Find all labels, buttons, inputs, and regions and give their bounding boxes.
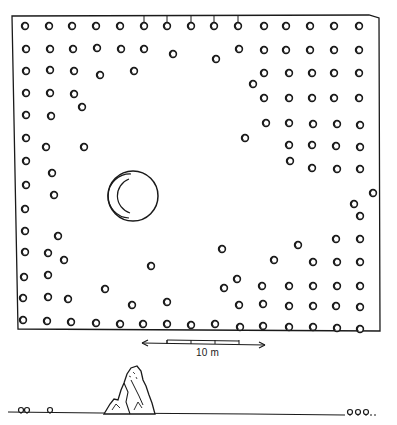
post-hole [250, 81, 257, 88]
post-hole [261, 47, 268, 54]
post-hole [70, 46, 77, 53]
post-hole [43, 144, 50, 151]
central-well-circle [108, 171, 158, 221]
post-hole [61, 257, 68, 264]
post-hole [357, 166, 364, 173]
post-hole [286, 283, 293, 290]
post-hole [309, 142, 316, 149]
post-hole [188, 322, 195, 329]
post-hole [48, 113, 55, 120]
site-plan-drawing [0, 0, 397, 425]
post-hole [23, 112, 30, 119]
post-hole [334, 166, 341, 173]
post-hole [71, 91, 78, 98]
post-hole [356, 23, 363, 30]
post-hole [357, 122, 364, 129]
post-hole [131, 68, 138, 75]
post-hole [164, 299, 171, 306]
shrub-icon [356, 410, 361, 417]
post-hole [140, 321, 147, 328]
post-hole [65, 296, 72, 303]
scale-line-bottom [142, 343, 265, 345]
post-hole [164, 23, 171, 30]
post-hole [334, 259, 341, 266]
post-hole [93, 320, 100, 327]
post-hole [141, 23, 148, 30]
post-hole [357, 304, 364, 311]
post-hole [236, 46, 243, 53]
post-hole [170, 51, 177, 58]
post-hole [309, 95, 316, 102]
post-hole [356, 70, 363, 77]
post-hole [286, 95, 293, 102]
shrub-icon [364, 410, 369, 417]
post-hole [307, 47, 314, 54]
post-hole [23, 46, 30, 53]
post-hole [333, 236, 340, 243]
post-hole [81, 144, 88, 151]
post-hole [370, 190, 377, 197]
post-hole [45, 250, 52, 257]
post-hole [357, 213, 364, 220]
post-hole [286, 70, 293, 77]
post-hole [46, 23, 53, 30]
post-hole [141, 46, 148, 53]
post-hole [286, 120, 293, 127]
post-hole [310, 283, 317, 290]
post-hole [211, 23, 218, 30]
post-hole [69, 23, 76, 30]
post-hole [148, 263, 155, 270]
post-hole [55, 233, 62, 240]
post-hole [334, 325, 341, 332]
post-hole [357, 259, 364, 266]
post-hole [212, 321, 219, 328]
post-hole [22, 228, 29, 235]
post-hole [118, 46, 125, 53]
post-hole [44, 318, 51, 325]
post-hole [51, 192, 58, 199]
post-hole [357, 283, 364, 290]
post-hole [23, 135, 30, 142]
post-hole [286, 324, 293, 331]
post-hole [97, 72, 104, 79]
well-outer [108, 171, 158, 221]
post-hole [331, 23, 338, 30]
shrub-icon [25, 408, 30, 415]
post-hole [102, 286, 109, 293]
post-hole [261, 95, 268, 102]
post-hole [93, 23, 100, 30]
post-hole [164, 321, 171, 328]
post-hole [49, 170, 56, 177]
post-hole [45, 272, 52, 279]
post-hole [71, 68, 78, 75]
post-hole [309, 70, 316, 77]
scale-label: 10 m [196, 347, 219, 358]
post-hole [23, 68, 30, 75]
post-hole [221, 285, 228, 292]
post-hole [263, 120, 270, 127]
ground-profile [8, 366, 378, 416]
post-hole [234, 276, 241, 283]
post-hole [236, 302, 243, 309]
post-hole [286, 142, 293, 149]
well-arc-2 [117, 179, 130, 213]
post-hole [331, 70, 338, 77]
post-hole [261, 70, 268, 77]
post-hole [23, 158, 30, 165]
site-plan-figure: 10 m [0, 0, 397, 425]
post-hole [129, 302, 136, 309]
post-hole [310, 121, 317, 128]
post-hole [310, 259, 317, 266]
post-holes [20, 23, 377, 333]
shrub-icon [19, 408, 24, 415]
ground-line [8, 412, 345, 415]
post-hole [283, 47, 290, 54]
post-hole [310, 303, 317, 310]
post-hole [47, 67, 54, 74]
shrub-icon [348, 410, 353, 417]
enclosure-border [12, 15, 380, 331]
rock-outcrop-icon [104, 366, 155, 414]
post-hole [219, 246, 226, 253]
post-hole [283, 23, 290, 30]
post-hole [261, 23, 268, 30]
